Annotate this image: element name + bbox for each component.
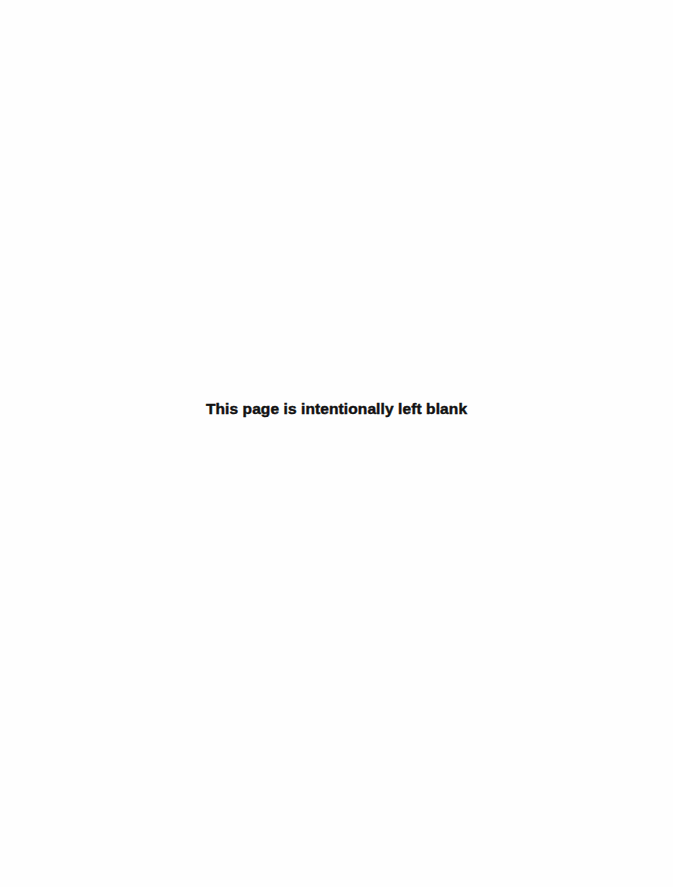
- blank-page-notice: This page is intentionally left blank: [0, 399, 673, 419]
- blank-page: This page is intentionally left blank: [0, 0, 673, 887]
